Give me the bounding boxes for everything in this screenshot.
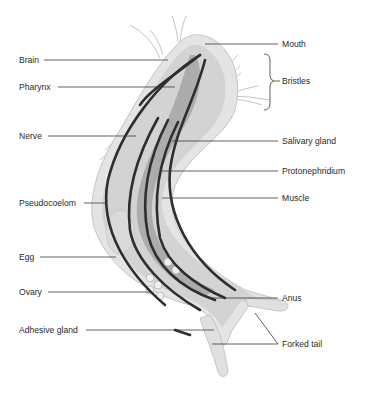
label-egg: Egg — [19, 252, 34, 262]
label-pseudocoelom: Pseudocoelom — [19, 198, 76, 208]
label-anus: Anus — [282, 293, 302, 303]
label-mouth: Mouth — [282, 39, 306, 49]
label-adhesive-gland: Adhesive gland — [19, 325, 78, 335]
label-brain: Brain — [19, 55, 39, 65]
bristles-bracket — [264, 54, 274, 110]
rotifer-diagram: Brain Pharynx Nerve Pseudocoelom Egg Ova… — [0, 0, 368, 396]
label-pharynx: Pharynx — [19, 82, 51, 92]
label-forked-tail: Forked tail — [282, 339, 322, 349]
label-bristles: Bristles — [282, 76, 310, 86]
label-nerve: Nerve — [19, 131, 42, 141]
label-salivary-gland: Salivary gland — [282, 136, 336, 146]
label-muscle: Muscle — [282, 193, 309, 203]
label-ovary: Ovary — [19, 287, 42, 297]
label-protonephridium: Protonephridium — [282, 166, 345, 176]
